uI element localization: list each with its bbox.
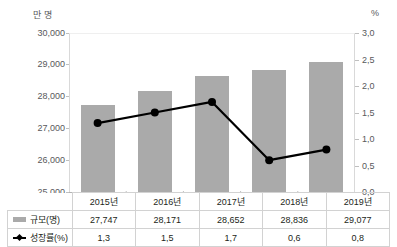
right-axis-tick: [355, 60, 359, 61]
left-axis-tick-label: 29,000: [19, 59, 65, 69]
right-axis-tick-label: 0,5: [362, 161, 396, 171]
line-marker-2017년: [208, 98, 216, 106]
line-series-layer: [69, 33, 355, 192]
data-table: 2015년 2016년 2017년 2018년 2019년 규모(명) 27,7…: [7, 192, 390, 247]
right-axis-tick: [355, 139, 359, 140]
right-axis-tick-label: 1,5: [362, 108, 396, 118]
table-cell: 1,5: [136, 229, 200, 247]
line-marker-2016년: [151, 109, 159, 117]
table-col-header: 2018년: [263, 193, 327, 211]
legend-label: 규모(명): [30, 213, 60, 226]
table-cell: 1,3: [72, 229, 136, 247]
table-col-header: 2017년: [199, 193, 263, 211]
line-marker-2019년: [322, 146, 330, 154]
right-axis-tick: [355, 113, 359, 114]
table-cell: 0,8: [326, 229, 390, 247]
table-header-row: 2015년 2016년 2017년 2018년 2019년: [8, 193, 390, 211]
right-axis-tick: [355, 33, 359, 34]
table-cell: 28,836: [263, 211, 327, 229]
right-axis-tick: [355, 86, 359, 87]
chart-container: 만 명 % 30,000 29,000 28,000 27,000 26,000…: [0, 0, 397, 247]
table-col-header: 2016년: [136, 193, 200, 211]
right-axis-tick-label: 1,0: [362, 134, 396, 144]
right-axis-unit-label: %: [371, 8, 379, 18]
table-cell: 0,6: [263, 229, 327, 247]
bar-swatch-icon: [13, 217, 26, 222]
legend-row-size: 규모(명): [8, 211, 73, 229]
table-col-header: 2019년: [326, 193, 390, 211]
right-axis-tick-label: 3,0: [362, 28, 396, 38]
left-axis-unit-label: 만 명: [33, 8, 52, 21]
right-axis-tick-label: 2,0: [362, 81, 396, 91]
left-axis-tick-label: 28,000: [19, 91, 65, 101]
table-row: 성장률(%) 1,3 1,5 1,7 0,6 0,8: [8, 229, 390, 247]
table-corner-cell: [8, 193, 73, 211]
line-marker-2015년: [94, 119, 102, 127]
table-cell: 29,077: [326, 211, 390, 229]
legend-label: 성장률(%): [30, 231, 68, 244]
line-marker-2018년: [265, 156, 273, 164]
left-axis-tick-label: 30,000: [19, 28, 65, 38]
table-cell: 27,747: [72, 211, 136, 229]
table-col-header: 2015년: [72, 193, 136, 211]
table-cell: 1,7: [199, 229, 263, 247]
table-cell: 28,171: [136, 211, 200, 229]
table-row: 규모(명) 27,747 28,171 28,652 28,836 29,077: [8, 211, 390, 229]
legend-row-growth: 성장률(%): [8, 229, 73, 247]
right-axis-tick: [355, 166, 359, 167]
line-marker-icon: [13, 234, 26, 241]
table-cell: 28,652: [199, 211, 263, 229]
left-axis-tick-label: 26,000: [19, 155, 65, 165]
growth-rate-line: [98, 102, 327, 160]
right-axis-tick-label: 2,5: [362, 55, 396, 65]
left-axis-tick-label: 27,000: [19, 123, 65, 133]
